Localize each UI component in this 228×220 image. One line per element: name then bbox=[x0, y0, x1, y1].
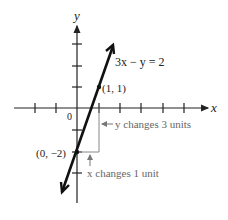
y-axis bbox=[72, 26, 82, 203]
x-change-annotation: x changes 1 unit bbox=[87, 167, 159, 179]
origin-label: 0 bbox=[67, 111, 72, 122]
point-label-0-neg2: (0, −2) bbox=[36, 147, 66, 160]
equation-label: 3x − y = 2 bbox=[115, 55, 165, 69]
graph-diagram: x y 0 y changes 3 units x changes 1 unit… bbox=[0, 0, 228, 220]
point-label-1-1: (1, 1) bbox=[102, 82, 126, 95]
x-axis-label: x bbox=[210, 100, 217, 115]
x-axis bbox=[14, 103, 208, 113]
point-0-neg2 bbox=[75, 150, 79, 154]
point-1-1 bbox=[97, 85, 101, 89]
y-change-annotation: y changes 3 units bbox=[115, 118, 191, 130]
y-axis-label: y bbox=[72, 8, 80, 23]
